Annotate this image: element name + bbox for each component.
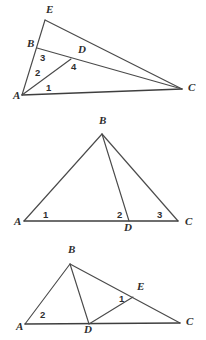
angle-label-1: 1 — [43, 209, 49, 220]
figure-3-vertex-labels: B E A D C — [15, 243, 194, 335]
segment-B-D — [102, 134, 129, 221]
angle-label-2: 2 — [117, 209, 122, 220]
figure-3: B E A D C 1 2 — [0, 240, 206, 340]
segment-D-E — [89, 297, 133, 324]
figure-2-angle-labels: 1 2 3 — [43, 209, 162, 220]
vertex-label-C: C — [185, 215, 193, 227]
figure-2-vertex-labels: B A D C — [13, 114, 193, 233]
figure-3-segments — [25, 264, 180, 324]
vertex-label-C: C — [188, 81, 196, 93]
angle-label-2: 2 — [40, 309, 45, 320]
angle-label-1: 1 — [119, 293, 125, 304]
segment-A-C — [25, 323, 180, 324]
figure-1: E B D A C 1 2 3 4 — [0, 0, 206, 112]
vertex-label-B: B — [98, 114, 106, 126]
figure-3-angle-labels: 1 2 — [40, 293, 125, 320]
figure-2-segments — [24, 134, 178, 221]
figure-1-angle-labels: 1 2 3 4 — [35, 52, 77, 93]
angle-label-3: 3 — [40, 52, 45, 63]
vertex-label-B: B — [67, 243, 75, 255]
vertex-label-D: D — [123, 221, 132, 233]
vertex-label-B: B — [26, 37, 34, 49]
figure-2: B A D C 1 2 3 — [0, 112, 206, 234]
angle-label-1: 1 — [46, 82, 52, 93]
vertex-label-C: C — [186, 315, 194, 327]
vertex-label-E: E — [45, 3, 53, 15]
vertex-label-A: A — [13, 215, 21, 227]
vertex-label-A: A — [12, 89, 20, 101]
angle-label-3: 3 — [157, 209, 162, 220]
figure-sheet: E B D A C 1 2 3 4 B A D C 1 2 3 — [0, 0, 206, 340]
segment-A-B — [25, 264, 70, 324]
segment-E-C — [45, 20, 182, 89]
segment-B-C — [70, 264, 180, 323]
angle-label-2: 2 — [35, 67, 40, 78]
vertex-label-D: D — [83, 323, 92, 335]
segment-B-C — [102, 134, 178, 221]
vertex-label-A: A — [15, 320, 23, 332]
segment-A-B — [24, 134, 102, 221]
angle-label-4: 4 — [71, 61, 77, 72]
vertex-label-D: D — [77, 43, 86, 55]
vertex-label-E: E — [136, 280, 144, 292]
